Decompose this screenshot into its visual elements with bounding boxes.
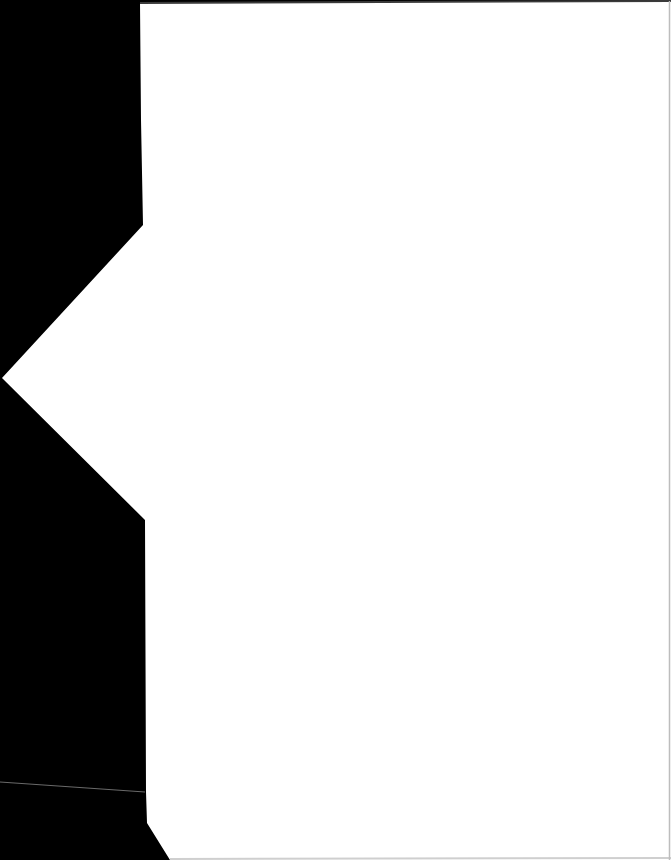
scanned-document xyxy=(0,0,671,860)
scan-canvas xyxy=(0,0,671,860)
page-bottom-edge xyxy=(170,858,671,859)
